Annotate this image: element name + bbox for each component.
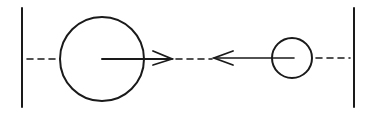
diagram-canvas xyxy=(0,0,376,113)
collision-diagram xyxy=(0,0,376,113)
right-arrow-icon xyxy=(102,51,172,65)
left-arrow-icon xyxy=(214,51,294,65)
